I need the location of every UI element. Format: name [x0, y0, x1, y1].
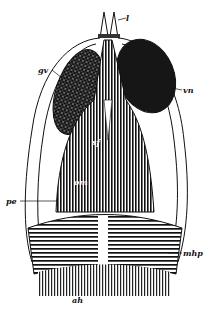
- anatomical-drawing: [0, 0, 209, 311]
- lower-fringe-ah: [38, 265, 170, 297]
- label-sf: sf: [92, 138, 100, 146]
- label-ah: ah: [72, 296, 83, 304]
- label-l: l: [126, 14, 129, 22]
- label-vn: vn: [183, 86, 193, 94]
- band-midline: [98, 216, 108, 270]
- label-mhp: mhp: [183, 249, 203, 257]
- label-pe: pe: [6, 197, 17, 205]
- anatomical-figure: l gv vn sf om pe mhp ah: [0, 0, 209, 311]
- label-gv: gv: [38, 66, 48, 74]
- label-om: om: [74, 178, 88, 186]
- tip-structure: [98, 12, 120, 38]
